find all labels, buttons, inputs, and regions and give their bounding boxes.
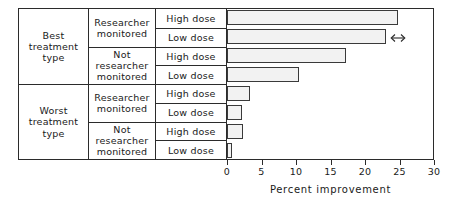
dose-cell: High dose: [156, 84, 226, 103]
bar-series: [227, 8, 434, 160]
bar-row: [227, 65, 434, 84]
bar: [227, 143, 232, 158]
treatment-type-column: Best treatment type Worst treatment type: [19, 9, 88, 159]
dose-cell: Low dose: [156, 140, 226, 159]
treatment-group-cell: Worst treatment type: [19, 84, 88, 159]
treatment-group-cell: Best treatment type: [19, 9, 88, 84]
bar: [227, 124, 243, 139]
dose-label: High dose: [166, 88, 215, 99]
dose-cell: High dose: [156, 9, 226, 28]
dose-label: Low dose: [168, 107, 214, 118]
dose-label: High dose: [166, 51, 215, 62]
dose-label: High dose: [166, 13, 215, 24]
bar: [227, 67, 299, 82]
bar-row: [227, 8, 434, 27]
dose-label: Low dose: [168, 145, 214, 156]
dose-cell: High dose: [156, 122, 226, 141]
bar: [227, 29, 386, 44]
bar-row: [227, 141, 434, 160]
monitoring-column: Researcher monitored Not researcher moni…: [88, 9, 156, 159]
dose-label: Low dose: [168, 32, 214, 43]
bar-row: [227, 46, 434, 65]
chart-figure: Best treatment type Worst treatment type…: [0, 0, 457, 207]
x-tick: [400, 160, 401, 165]
monitor-group-cell: Not researcher monitored: [89, 122, 155, 160]
dose-label: High dose: [166, 126, 215, 137]
bar-row: [227, 122, 434, 141]
x-tick-label: 15: [324, 166, 337, 177]
dose-cell: Low dose: [156, 65, 226, 84]
x-tick: [227, 160, 228, 165]
x-tick: [331, 160, 332, 165]
row-label-table: Best treatment type Worst treatment type…: [18, 8, 227, 160]
x-tick-label: 5: [258, 166, 264, 177]
x-tick-label: 25: [393, 166, 406, 177]
bar-row: [227, 84, 434, 103]
dose-column: High dose Low dose High dose Low dose Hi…: [156, 9, 226, 159]
dose-cell: Low dose: [156, 103, 226, 122]
dose-cell: High dose: [156, 47, 226, 66]
x-axis-title: Percent improvement: [227, 184, 434, 195]
x-tick-label: 30: [428, 166, 441, 177]
x-tick: [434, 160, 435, 165]
x-tick-label: 10: [290, 166, 303, 177]
x-tick: [296, 160, 297, 165]
bar: [227, 86, 250, 101]
monitor-group-cell: Researcher monitored: [89, 84, 155, 122]
x-tick-label: 0: [224, 166, 230, 177]
monitor-group-cell: Researcher monitored: [89, 9, 155, 47]
bar-row: [227, 27, 434, 46]
bar: [227, 10, 398, 25]
bar: [227, 105, 242, 120]
x-tick: [262, 160, 263, 165]
dose-label: Low dose: [168, 70, 214, 81]
dose-cell: Low dose: [156, 28, 226, 47]
x-tick: [365, 160, 366, 165]
bar-row: [227, 103, 434, 122]
monitor-group-cell: Not researcher monitored: [89, 47, 155, 85]
x-axis-tick-labels: 051015202530: [227, 166, 434, 180]
x-tick-label: 20: [359, 166, 372, 177]
bar: [227, 48, 346, 63]
